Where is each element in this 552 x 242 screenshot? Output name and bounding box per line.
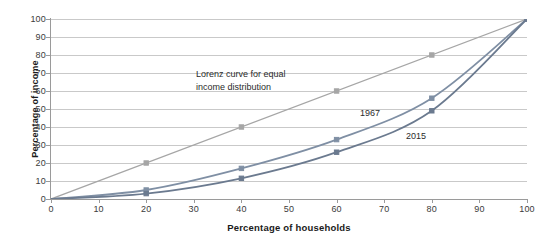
plot-area <box>51 19 527 199</box>
x-tick-label: 30 <box>181 204 207 214</box>
y-tick-label: 100 <box>26 14 46 24</box>
x-tick-mark <box>146 199 147 203</box>
x-tick-label: 60 <box>324 204 350 214</box>
x-tick-mark <box>527 199 528 203</box>
x-tick-label: 90 <box>466 204 492 214</box>
series-layer <box>51 19 527 199</box>
x-tick-label: 0 <box>38 204 64 214</box>
x-tick-label: 100 <box>514 204 540 214</box>
y-tick-label: 20 <box>26 158 46 168</box>
x-tick-mark <box>432 199 433 203</box>
x-tick-mark <box>99 199 100 203</box>
x-tick-mark <box>194 199 195 203</box>
x-tick-label: 10 <box>86 204 112 214</box>
lorenz-curve-chart: Percentage of income 0102030405060708090… <box>0 0 552 242</box>
y-tick-label: 60 <box>26 86 46 96</box>
x-tick-mark <box>241 199 242 203</box>
y-tick-label: 0 <box>26 194 46 204</box>
x-tick-mark <box>337 199 338 203</box>
y-tick-label: 30 <box>26 140 46 150</box>
x-axis-title: Percentage of households <box>51 222 527 233</box>
x-axis-tick-labels: 0102030405060708090100 <box>0 204 552 220</box>
x-tick-mark <box>479 199 480 203</box>
y-tick-label: 80 <box>26 50 46 60</box>
x-tick-label: 50 <box>276 204 302 214</box>
y-tick-label: 50 <box>26 104 46 114</box>
y-axis-title-container: Percentage of income <box>8 19 22 199</box>
x-tick-mark <box>51 199 52 203</box>
x-tick-mark <box>384 199 385 203</box>
y-tick-label: 90 <box>26 32 46 42</box>
y-tick-label: 70 <box>26 68 46 78</box>
x-tick-mark <box>289 199 290 203</box>
annotation-curve-2015: 2015 <box>406 130 426 143</box>
annotation-curve-1967: 1967 <box>360 107 380 120</box>
annotation-equality-line: Lorenz curve for equal income distributi… <box>196 68 286 94</box>
x-tick-label: 20 <box>133 204 159 214</box>
y-tick-label: 40 <box>26 122 46 132</box>
x-tick-label: 70 <box>371 204 397 214</box>
x-tick-label: 80 <box>419 204 445 214</box>
y-tick-label: 10 <box>26 176 46 186</box>
x-tick-label: 40 <box>228 204 254 214</box>
